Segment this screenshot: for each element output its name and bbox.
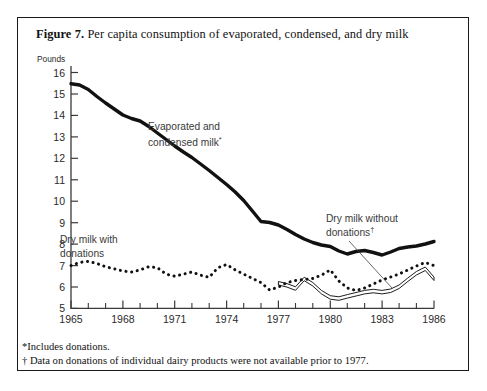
label-dry-without-line1: Dry milk without — [326, 213, 398, 224]
x-axis-ticks: 1965 1968 1971 1974 1977 1980 1983 1986 — [59, 301, 446, 325]
label-evaporated-line2: condensed milk — [148, 137, 220, 148]
svg-text:1971: 1971 — [163, 313, 187, 325]
svg-text:1968: 1968 — [111, 313, 135, 325]
svg-text:7: 7 — [59, 260, 65, 272]
svg-text:11: 11 — [54, 174, 65, 186]
footnote-asterisk: *Includes donations. — [22, 341, 110, 352]
svg-text:donations†: donations† — [326, 225, 374, 238]
footnote-dagger: † Data on donations of individual dairy … — [22, 355, 369, 366]
leader-line-dry-without-donations — [349, 241, 392, 288]
svg-text:16: 16 — [53, 67, 65, 79]
svg-text:1983: 1983 — [370, 313, 394, 325]
svg-text:10: 10 — [53, 195, 65, 207]
label-dry-with-line2: donations — [60, 248, 104, 259]
series-dry-milk-without-donations — [278, 267, 434, 300]
svg-text:1980: 1980 — [319, 313, 343, 325]
svg-text:14: 14 — [53, 109, 65, 121]
label-dry-with-line1: Dry milk with — [60, 234, 118, 245]
svg-text:12: 12 — [53, 152, 65, 164]
chart-plot-area: Pounds 16 15 14 13 12 11 10 9 8 7 6 — [0, 0, 487, 391]
svg-text:15: 15 — [53, 88, 65, 100]
svg-text:1986: 1986 — [422, 313, 446, 325]
label-evaporated-line1: Evaporated and — [148, 121, 220, 132]
label-evaporated-marker: * — [219, 135, 222, 144]
y-axis-unit-label: Pounds — [37, 54, 65, 64]
series-dry-milk-with-donations — [71, 261, 434, 290]
label-dry-without-marker: † — [370, 225, 374, 234]
svg-text:13: 13 — [53, 131, 65, 143]
svg-text:6: 6 — [59, 281, 65, 293]
figure-page: Figure 7. Per capita consumption of evap… — [0, 0, 487, 391]
svg-text:1965: 1965 — [59, 313, 83, 325]
series-evaporated-condensed-milk — [71, 84, 434, 255]
svg-text:condensed milk*: condensed milk* — [148, 135, 222, 148]
y-axis-ticks: 16 15 14 13 12 11 10 9 8 7 6 5 — [53, 67, 78, 315]
x-axis-minor-ticks — [88, 303, 416, 308]
svg-text:9: 9 — [59, 217, 65, 229]
svg-text:1974: 1974 — [215, 313, 239, 325]
label-dry-without-line2: donations — [326, 227, 370, 238]
annotation-dry-milk-with-donations: Dry milk with donations — [60, 234, 118, 259]
svg-text:1977: 1977 — [267, 313, 291, 325]
